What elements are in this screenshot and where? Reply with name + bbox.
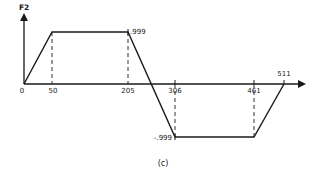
y-axis-label: F2 xyxy=(19,3,29,12)
trapezoid-waveform-diagram: F2 0 50 205 306 461 511 .999 -.999 (c) xyxy=(0,0,332,178)
high-level-label: .999 xyxy=(130,28,146,36)
x-tick-label-306: 306 xyxy=(168,87,182,95)
x-tick-label-0: 0 xyxy=(20,87,24,95)
x-tick-label-511: 511 xyxy=(277,70,290,78)
x-tick-label-50: 50 xyxy=(49,87,58,95)
figure-caption: (c) xyxy=(158,159,169,168)
x-tick-label-205: 205 xyxy=(121,87,134,95)
x-tick-label-461: 461 xyxy=(247,87,260,95)
low-level-label: -.999 xyxy=(154,134,172,142)
